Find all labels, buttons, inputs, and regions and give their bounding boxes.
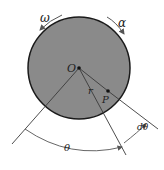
point-label: P bbox=[101, 94, 109, 105]
center-point bbox=[77, 66, 81, 70]
center-label: O bbox=[67, 62, 76, 75]
alpha-label: α bbox=[118, 16, 126, 30]
dtheta-label: dθ bbox=[137, 122, 149, 132]
theta-arc bbox=[25, 129, 122, 151]
theta-label: θ bbox=[64, 142, 70, 153]
omega-label: ω bbox=[40, 11, 50, 25]
rotating-disk-diagram: ω α O r P θ dθ bbox=[0, 0, 164, 170]
point-p bbox=[106, 89, 110, 93]
